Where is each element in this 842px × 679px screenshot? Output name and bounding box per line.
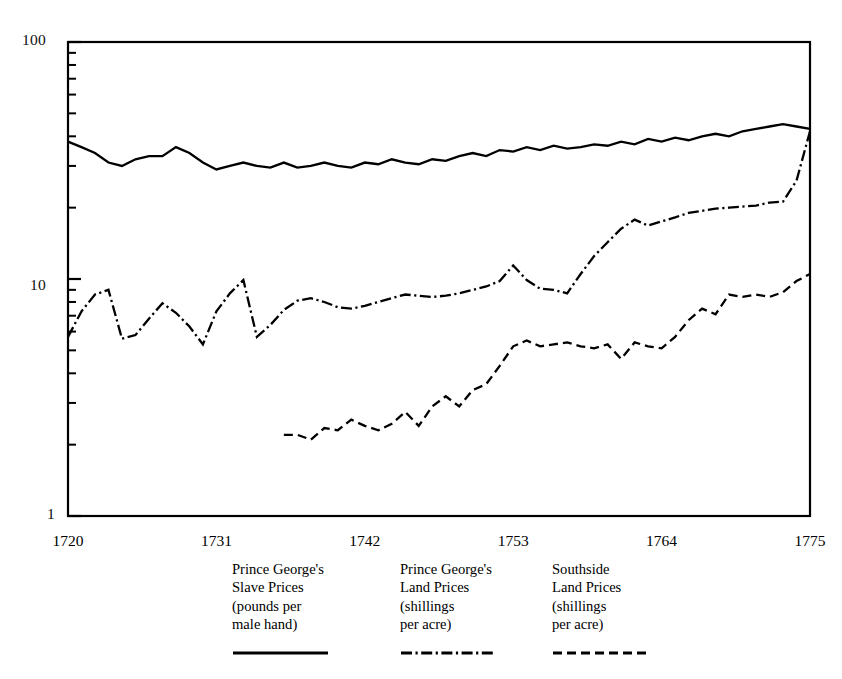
legend-swatch-dashed-line — [553, 646, 650, 660]
series-line — [284, 274, 810, 440]
legend-line: (shillings — [552, 597, 712, 615]
legend-line: (pounds per — [232, 597, 392, 615]
legend-line: Land Prices — [400, 578, 560, 596]
series-line — [68, 131, 810, 344]
x-axis-label-1731: 1731 — [201, 532, 232, 550]
legend-entry-southside-land-prices: Southside Land Prices (shillings per acr… — [552, 560, 712, 634]
legend-line: Prince George's — [400, 560, 560, 578]
x-axis-label-1753: 1753 — [498, 532, 529, 550]
x-axis-label-1720: 1720 — [53, 532, 84, 550]
legend-entry-pg-land-prices: Prince George's Land Prices (shillings p… — [400, 560, 560, 634]
x-axis-label-1775: 1775 — [795, 532, 826, 550]
y-axis-label-1: 1 — [47, 505, 55, 523]
series-line — [68, 124, 810, 169]
x-axis-label-1742: 1742 — [349, 532, 380, 550]
legend-line: per acre) — [552, 615, 712, 633]
legend-line: (shillings — [400, 597, 560, 615]
y-axis-label-10: 10 — [30, 276, 46, 294]
legend-line: Land Prices — [552, 578, 712, 596]
chart-legend: Prince George's Slave Prices (pounds per… — [0, 560, 842, 679]
legend-line: male hand) — [232, 615, 392, 633]
x-axis-label-1764: 1764 — [646, 532, 677, 550]
legend-swatch-dash-dot-line — [401, 646, 498, 660]
legend-entry-slave-prices: Prince George's Slave Prices (pounds per… — [232, 560, 392, 634]
legend-line: Slave Prices — [232, 578, 392, 596]
legend-swatch-solid-line — [233, 646, 330, 660]
legend-line: Southside — [552, 560, 712, 578]
legend-entry-southside-land-prices-label: Southside Land Prices (shillings per acr… — [552, 560, 712, 634]
legend-line: per acre) — [400, 615, 560, 633]
price-chart-figure: 100 10 1 1720 1731 1742 1753 1764 1775 P… — [0, 0, 842, 679]
legend-entry-pg-land-prices-label: Prince George's Land Prices (shillings p… — [400, 560, 560, 634]
legend-entry-slave-prices-label: Prince George's Slave Prices (pounds per… — [232, 560, 392, 634]
y-axis-label-100: 100 — [22, 31, 46, 49]
legend-line: Prince George's — [232, 560, 392, 578]
